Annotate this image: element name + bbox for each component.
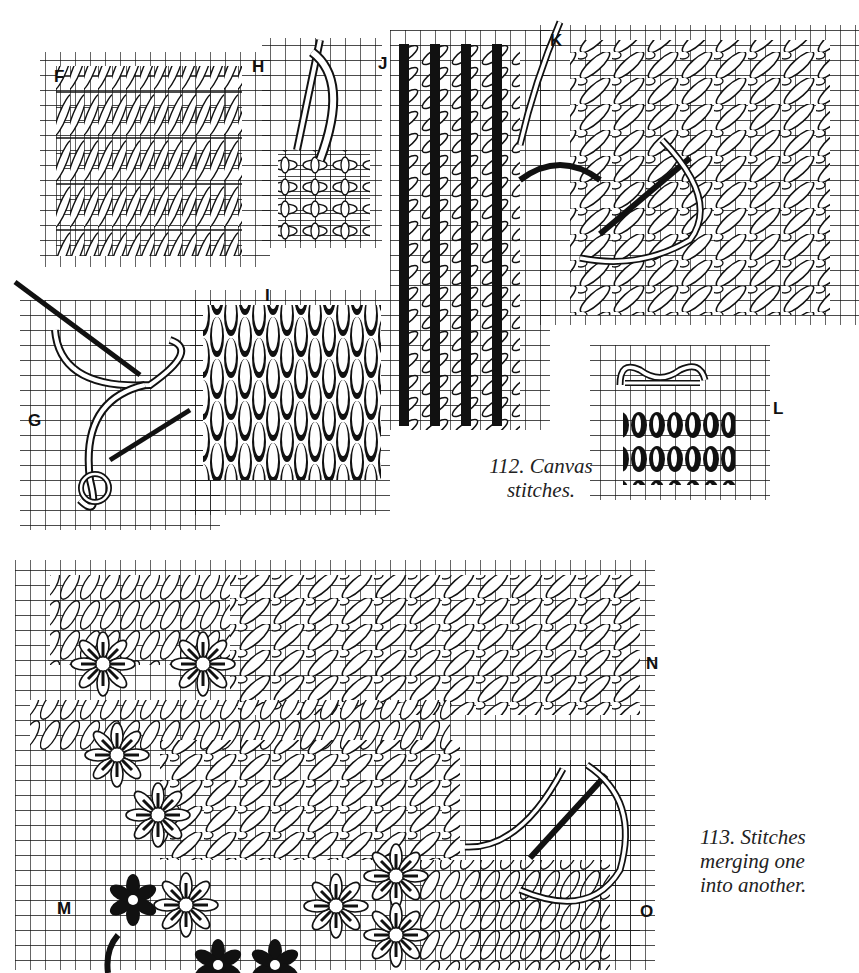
figure-112-caption: 112. Canvas stitches. bbox=[482, 454, 600, 502]
caption-line: 113. Stitches bbox=[700, 825, 859, 849]
panel-o bbox=[465, 760, 640, 960]
label-k: K bbox=[550, 32, 562, 49]
panel-i bbox=[190, 290, 390, 515]
caption-line: merging one bbox=[700, 849, 859, 873]
panel-g bbox=[15, 282, 220, 530]
caption-line: stitches. bbox=[482, 478, 600, 502]
figure-113-caption: 113. Stitches merging one into another. bbox=[700, 825, 859, 897]
label-l: L bbox=[773, 400, 783, 417]
label-h: H bbox=[252, 58, 264, 75]
panel-j bbox=[390, 30, 550, 430]
label-f: F bbox=[54, 68, 64, 85]
book-page: F G H I J K L M N O 112. Canvas stitches… bbox=[0, 0, 859, 973]
label-n: N bbox=[646, 655, 658, 672]
caption-line: 112. Canvas bbox=[482, 454, 600, 478]
label-o: O bbox=[640, 903, 653, 920]
label-j: J bbox=[378, 55, 387, 72]
caption-line: into another. bbox=[700, 873, 859, 897]
label-i: I bbox=[265, 287, 270, 304]
label-g: G bbox=[28, 412, 41, 429]
label-m: M bbox=[57, 900, 71, 917]
panel-f bbox=[40, 52, 270, 267]
panel-h bbox=[262, 38, 382, 248]
panel-l bbox=[590, 345, 770, 500]
panel-k bbox=[520, 22, 859, 325]
